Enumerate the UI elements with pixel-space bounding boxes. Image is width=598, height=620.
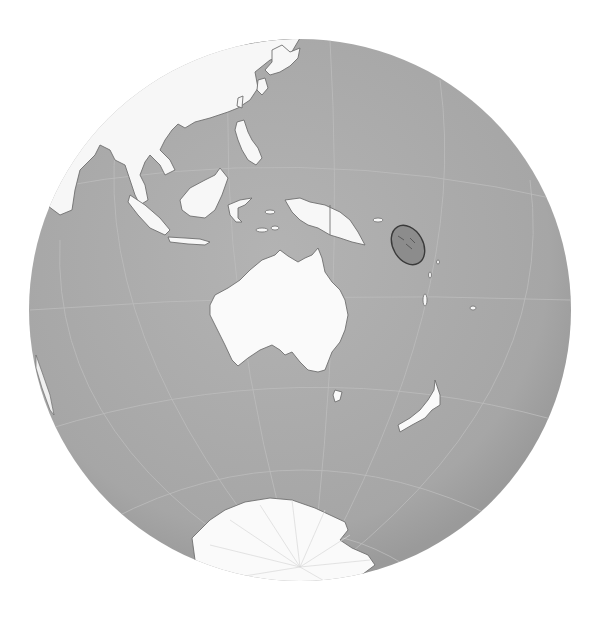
land-taiwan (237, 96, 243, 108)
globe-map (0, 0, 598, 620)
